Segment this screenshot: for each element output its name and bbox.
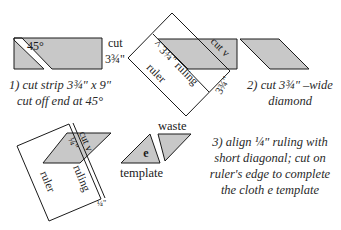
step2-diamond: [240, 39, 309, 69]
step2-ruler-label: ruler: [145, 61, 169, 85]
step1-caption-line1: 1) cut strip 3¾" x 9": [9, 78, 112, 92]
step1-angle-label: 45°: [27, 39, 44, 53]
template-cutting-diagram: 45° cut 3¾" 1) cut strip 3¾" x 9" cut of…: [0, 0, 341, 230]
waste-label: waste: [158, 119, 187, 133]
step1-width-label: 3¾": [105, 52, 125, 66]
step3-ruling-label: ruling: [70, 163, 93, 194]
step1-caption-line2: cut off end at 45°: [17, 94, 103, 108]
step2-caption-line1: 2) cut 3¾" –wide: [247, 78, 333, 92]
template-piece: [121, 134, 160, 163]
template-letter: e: [143, 146, 149, 160]
step3-caption-line2: short diagonal; cut on: [214, 151, 325, 165]
step3-ruler-label: ruler: [38, 169, 58, 194]
template-label: template: [120, 166, 163, 180]
step3-caption-line4: the cloth e template: [221, 183, 320, 197]
step3-caption-line3: ruler's edge to complete: [210, 167, 331, 181]
step2-caption-line2: diamond: [268, 94, 313, 108]
waste-piece: [158, 134, 191, 161]
step3-edge-label: ¼": [97, 199, 106, 208]
step3-caption-line1: 3) align ¼" ruling with: [211, 135, 327, 149]
step2-width-label: 3¾": [212, 74, 232, 96]
step1-cut-label: cut: [108, 36, 123, 50]
